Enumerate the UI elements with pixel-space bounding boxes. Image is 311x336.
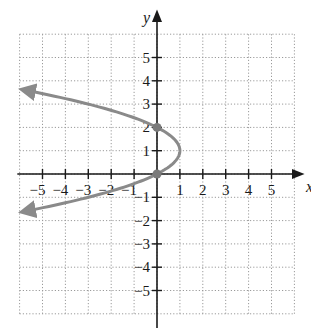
y-tick-label: 3: [143, 96, 151, 112]
graph: −5−4−3−2−112345−5−4−3−2−112345 x y: [0, 0, 311, 336]
y-tick-label: 1: [143, 143, 151, 159]
x-tick-label: 3: [222, 182, 230, 198]
y-tick-label: −2: [134, 213, 150, 229]
data-point: [153, 123, 162, 132]
y-tick-label: −1: [134, 189, 150, 205]
x-tick-label: −4: [52, 182, 68, 198]
x-tick-label: −5: [30, 182, 46, 198]
x-tick-label: 1: [176, 182, 184, 198]
y-tick-label: 5: [143, 50, 151, 66]
y-tick-label: −5: [134, 283, 150, 299]
y-tick-label: −3: [134, 236, 150, 252]
data-point: [153, 170, 162, 179]
y-axis-label: y: [141, 9, 151, 27]
y-tick-label: −4: [134, 259, 150, 275]
x-tick-label: 4: [245, 182, 253, 198]
x-tick-label: 2: [199, 182, 207, 198]
axes: [17, 12, 302, 328]
x-tick-label: 5: [268, 182, 276, 198]
y-tick-label: 4: [143, 73, 151, 89]
x-axis-label: x: [305, 178, 311, 195]
